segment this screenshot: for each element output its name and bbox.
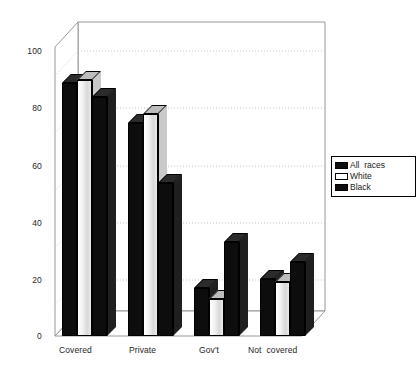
bar-side [173,174,182,336]
bar-face [77,80,92,336]
bar-face [128,123,143,336]
legend-label-white: White [350,172,372,181]
x-tick-label-private: Private [129,346,156,355]
legend: All races White Black [331,156,416,197]
bar-covered-white [77,80,92,336]
x-tick-label-govt: Gov't [199,346,219,355]
legend-label-black: Black [350,183,371,192]
y-tick-label-100: 100 [8,47,42,56]
x-tick-label-covered: Covered [59,346,92,355]
legend-item-white: White [335,171,411,182]
y-tick-label-80: 80 [8,104,42,113]
bar-private-all-races [128,123,143,336]
bar-covered-all-races [62,83,77,336]
bar-not-covered-black [290,262,305,336]
bar-govt-black [224,242,239,336]
bar-face [158,183,173,336]
bar-face [92,97,107,336]
bar-side [305,253,314,336]
bar-face [62,83,77,336]
legend-swatch-white-icon [335,173,348,180]
legend-swatch-all-races-icon [335,162,348,169]
legend-label-all-races: All races [350,161,385,170]
bar-not-covered-all-races [260,279,275,336]
y-tick-label-20: 20 [8,276,42,285]
bar-govt-white [209,299,224,336]
bar-face [194,288,209,336]
bar-face [224,242,239,336]
y-tick-label-0: 0 [8,332,42,341]
legend-item-black: Black [335,182,411,193]
bar-face [209,299,224,336]
bar-chart: 100 80 60 40 20 0 [0,0,416,371]
bar-side [239,233,248,336]
bar-private-white [143,114,158,336]
bar-face [260,279,275,336]
x-tick-label-not-covered: Not covered [248,346,297,355]
bar-side [107,88,116,336]
bar-govt-all-races [194,288,209,336]
legend-item-all-races: All races [335,160,411,171]
bar-covered-black [92,97,107,336]
bar-face [290,262,305,336]
bar-not-covered-white [275,282,290,336]
y-tick-label-40: 40 [8,219,42,228]
y-tick-label-60: 60 [8,162,42,171]
bar-face [275,282,290,336]
bar-face [143,114,158,336]
legend-swatch-black-icon [335,184,348,191]
bar-private-black [158,183,173,336]
